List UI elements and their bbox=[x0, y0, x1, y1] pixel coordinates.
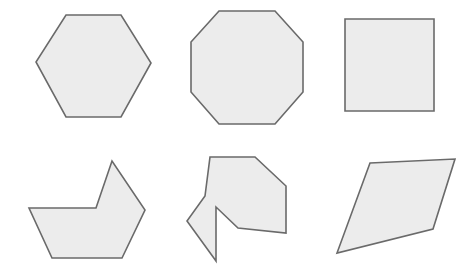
shape-concave-arrow-polygon bbox=[187, 157, 286, 261]
shape-regular-octagon bbox=[191, 11, 303, 124]
shape-slanted-quadrilateral bbox=[337, 159, 455, 253]
shape-square bbox=[345, 19, 434, 111]
shape-concave-hexagon-notched bbox=[29, 161, 145, 258]
shapes-canvas bbox=[0, 0, 476, 274]
shape-regular-hexagon bbox=[36, 15, 151, 117]
shapes-group bbox=[29, 11, 455, 261]
shapes-svg bbox=[0, 0, 476, 274]
